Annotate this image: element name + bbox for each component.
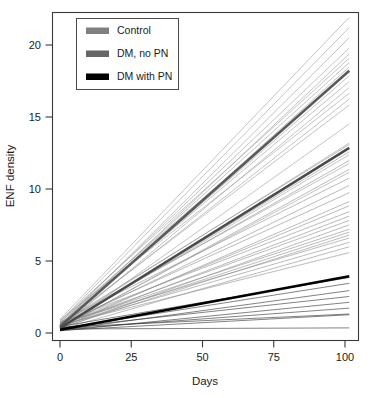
y-axis-ticks: 05101520 <box>29 39 53 339</box>
legend-label: DM with PN <box>117 70 172 82</box>
legend-swatch <box>86 28 109 35</box>
y-tick-label: 5 <box>35 255 41 267</box>
x-tick-label: 0 <box>57 351 63 363</box>
chart-svg: 0255075100 05101520 Days ENF density Con… <box>0 0 373 398</box>
x-tick-label: 75 <box>268 351 280 363</box>
legend-swatch <box>86 51 109 58</box>
legend-swatch <box>86 74 109 81</box>
x-tick-label: 25 <box>125 351 137 363</box>
x-axis-ticks: 0255075100 <box>57 341 354 364</box>
subject-trajectory-line <box>60 201 349 327</box>
y-tick-label: 15 <box>29 111 41 123</box>
subject-trajectory-line <box>60 206 349 326</box>
legend-label: DM, no PN <box>117 47 168 59</box>
subject-trajectory-line <box>60 238 349 324</box>
subject-trajectory-line <box>60 124 349 329</box>
chart-legend: ControlDM, no PNDM with PN <box>77 19 179 90</box>
subject-trajectory-line <box>60 302 349 331</box>
subject-trajectory-line <box>60 220 349 325</box>
subject-trajectory-line <box>60 105 349 324</box>
enf-density-chart: 0255075100 05101520 Days ENF density Con… <box>0 0 373 398</box>
x-tick-label: 50 <box>196 351 208 363</box>
y-tick-label: 20 <box>29 39 41 51</box>
x-axis-title: Days <box>192 375 218 387</box>
y-axis-title: ENF density <box>4 144 16 207</box>
y-tick-label: 10 <box>29 183 41 195</box>
x-tick-label: 100 <box>336 351 354 363</box>
subject-trajectory-line <box>60 99 349 326</box>
subject-trajectory-line <box>60 308 349 329</box>
y-tick-label: 0 <box>35 327 41 339</box>
legend-label: Control <box>117 24 151 36</box>
